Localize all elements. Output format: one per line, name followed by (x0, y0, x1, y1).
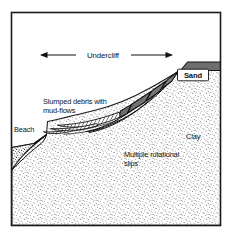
label-sand-group: Sand (178, 69, 209, 81)
label-undercliff: Undercliff (87, 51, 120, 60)
label-multiple-slips-line1: Multiple rotational (124, 150, 180, 159)
diagram-canvas (11, 12, 221, 226)
label-slumped-debris-line1: Slumped debris with (43, 97, 107, 106)
cross-section-diagram: Undercliff Sand Slumped debris with mud-… (0, 0, 232, 239)
label-slumped-debris-line2: mud-flows (43, 106, 76, 115)
label-sand: Sand (184, 71, 203, 80)
label-beach: Beach (14, 125, 34, 134)
figure-root: Undercliff Sand Slumped debris with mud-… (0, 0, 232, 239)
label-clay: Clay (186, 132, 201, 141)
label-multiple-slips-line2: slips (124, 159, 138, 168)
